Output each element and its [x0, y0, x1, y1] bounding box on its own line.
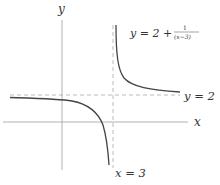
- equation-label: y = 2 + 1 (x−3): [129, 24, 199, 40]
- left-branch-curve: [10, 98, 109, 166]
- y-axis-label: y: [57, 2, 65, 16]
- equation-denominator: (x−3): [174, 33, 192, 40]
- equation-numerator: 1: [183, 24, 187, 31]
- hyperbola-graph: y x y = 2 x = 3 y = 2 + 1 (x−3): [0, 0, 220, 185]
- x-axis-label: x: [194, 115, 201, 129]
- v-asymptote-label: x = 3: [115, 166, 146, 180]
- equation-lhs: y = 2 +: [129, 27, 172, 40]
- h-asymptote-label: y = 2: [183, 89, 215, 103]
